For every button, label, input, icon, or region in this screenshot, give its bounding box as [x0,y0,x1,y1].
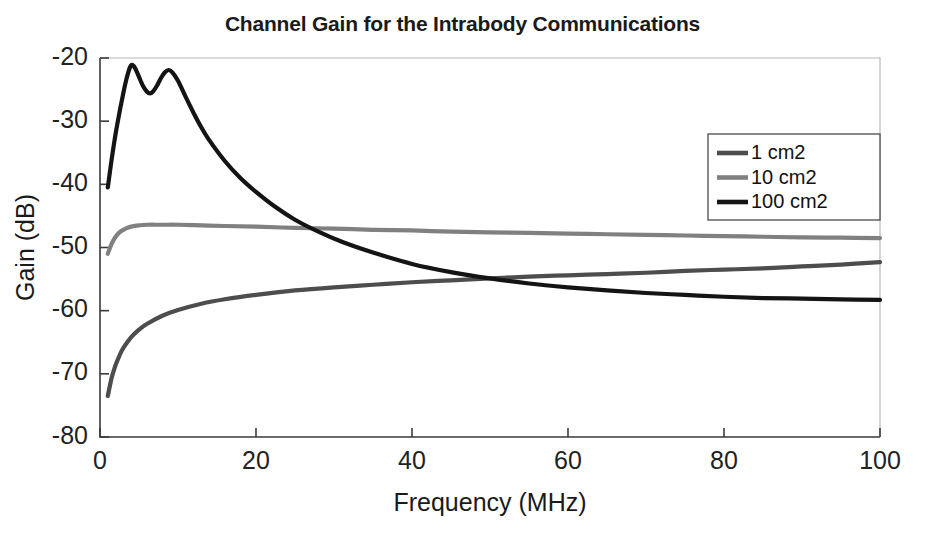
x-tick-label: 80 [710,446,738,474]
legend[interactable]: 1 cm210 cm2100 cm2 [708,134,880,220]
axis-frame-outer [100,58,880,437]
y-tick-label: -60 [52,294,88,322]
axes [100,58,880,437]
x-tick-label: 0 [93,446,107,474]
legend-label-0: 1 cm2 [751,141,805,163]
series-line-1 [108,225,880,254]
axis-frame-main [100,58,880,437]
tick-labels: -20-30-40-50-60-70-80020406080100 [52,42,901,475]
x-axis-title: Frequency (MHz) [393,488,586,516]
x-tick-label: 20 [242,446,270,474]
x-tick-label: 100 [859,446,901,474]
x-tick-label: 60 [554,446,582,474]
y-tick-label: -80 [52,421,88,449]
series-line-0 [108,262,880,396]
x-tick-label: 40 [398,446,426,474]
chart-figure: Channel Gain for the Intrabody Communica… [0,0,925,535]
y-tick-label: -30 [52,105,88,133]
y-axis-title: Gain (dB) [11,194,39,301]
data-series-group [108,65,880,396]
y-tick-label: -70 [52,357,88,385]
chart-plot: -20-30-40-50-60-70-80020406080100 Freque… [0,0,925,535]
y-tick-label: -50 [52,231,88,259]
y-tick-label: -20 [52,42,88,70]
legend-label-1: 10 cm2 [751,166,817,188]
y-tick-label: -40 [52,168,88,196]
legend-label-2: 100 cm2 [751,190,828,212]
